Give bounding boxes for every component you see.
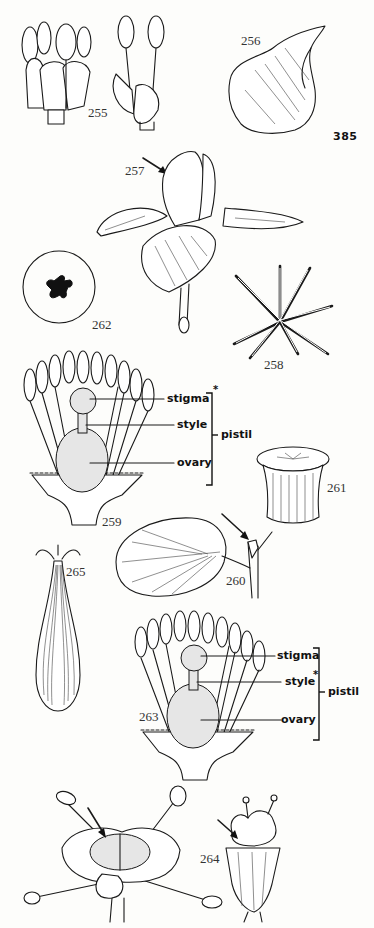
illustration-page: 385 255 — [0, 0, 374, 928]
label-ovary: ovary — [177, 457, 212, 468]
figure-label-255: 255 — [88, 106, 108, 119]
label-stigma: stigma — [167, 393, 209, 404]
label-ovary: ovary — [281, 714, 316, 725]
figure-262: 262 — [22, 250, 122, 330]
label-style: style — [177, 419, 207, 430]
figure-259: stigma * style pistil ovary 259 — [22, 355, 272, 530]
label-stigma: stigma — [277, 650, 319, 661]
figure-label-260: 260 — [226, 574, 246, 587]
figure-265: 265 — [18, 545, 118, 715]
petal-illustration — [215, 20, 335, 140]
figure-260: 260 — [112, 512, 287, 602]
figure-label-265: 265 — [66, 565, 86, 578]
figure-256: 256 — [215, 20, 335, 140]
figure-label-263: 263 — [139, 710, 159, 723]
flower-section-illustration — [22, 355, 272, 530]
label-asterisk: * — [313, 670, 318, 680]
figure-label-257: 257 — [125, 164, 145, 177]
leaf-stipule-illustration — [112, 512, 287, 602]
label-asterisk: * — [213, 385, 218, 395]
figure-264: 264 — [22, 788, 292, 923]
figure-255: 255 — [8, 10, 168, 130]
label-pistil: pistil — [328, 686, 359, 697]
figure-label-261: 261 — [327, 481, 347, 494]
page-number: 385 — [333, 131, 357, 142]
flower-section-illustration — [133, 618, 373, 783]
flower-pistil-illustration — [22, 788, 292, 923]
label-pistil: pistil — [221, 429, 252, 440]
label-style: style — [285, 676, 315, 687]
figure-label-264: 264 — [200, 852, 220, 865]
figure-label-256: 256 — [241, 34, 261, 47]
figure-label-262: 262 — [92, 318, 112, 331]
figure-263: stigma style * pistil ovary 263 — [133, 618, 373, 783]
